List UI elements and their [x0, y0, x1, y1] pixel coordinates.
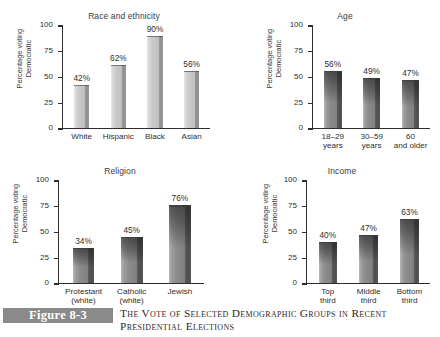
- x-axis-category-label-line: 30–59: [360, 132, 383, 142]
- plot-area: 100755025034%Protestant(white)45%Catholi…: [58, 181, 204, 284]
- bar-value-label: 34%: [75, 236, 92, 246]
- bar-item: 47%Middlethird: [359, 235, 377, 283]
- y-axis-tick-label: 50: [40, 227, 49, 236]
- x-axis-category-label-line: White: [71, 132, 92, 142]
- bar-value-label: 47%: [402, 68, 419, 78]
- chart-panel-religion: ReligionPercentage votingDemocratic10075…: [0, 157, 220, 312]
- x-axis-category-label-line: (white): [65, 296, 102, 306]
- x-axis-category-label-line: Bottom: [397, 287, 423, 297]
- x-axis-category-label-line: years: [360, 141, 383, 151]
- y-axis-tick: 0: [302, 283, 307, 284]
- y-axis-tick-label: 100: [284, 175, 297, 184]
- bar-top-edge: [324, 71, 341, 72]
- bar-item: 76%Jewish: [169, 205, 191, 282]
- plot-area: 100755025042%White62%Hispanic90%Black56%…: [62, 26, 210, 129]
- x-axis-category-label-line: Top: [320, 287, 336, 297]
- x-axis-category-label-line: Catholic: [117, 287, 146, 297]
- x-axis-category-label-line: years: [322, 141, 345, 151]
- bar-group: 56%18–29years49%30–59years47%60and older: [313, 26, 430, 128]
- bar: [359, 235, 377, 283]
- x-axis-category-label-line: third: [320, 296, 336, 306]
- chart-panel-age: AgePercentage votingDemocratic1007550250…: [220, 2, 440, 157]
- y-axis-tick: 25: [58, 103, 63, 104]
- x-axis-category-label-line: Asian: [182, 132, 202, 142]
- bar-top-edge: [169, 205, 191, 206]
- chart-title: Religion: [0, 166, 220, 176]
- y-axis-tick: 75: [308, 51, 313, 52]
- bar: [121, 237, 143, 283]
- x-axis-line: [58, 283, 204, 284]
- bar-group: 40%Topthird47%Middlethird63%Bottomthird: [307, 181, 430, 283]
- bar: [402, 80, 419, 128]
- bar-value-label: 56%: [325, 59, 342, 69]
- y-axis-tick: 25: [308, 103, 313, 104]
- x-axis-category-label: Middlethird: [357, 287, 381, 306]
- y-axis-label-line-2: Democratic: [21, 172, 30, 256]
- y-axis-tick-label: 25: [294, 98, 303, 107]
- x-axis-category-label-line: 18–29: [322, 132, 345, 142]
- y-axis-tick-label: 75: [294, 46, 303, 55]
- bar-top-edge: [73, 248, 95, 249]
- bar-value-label: 76%: [172, 193, 189, 203]
- bar: [169, 205, 191, 282]
- bar-item: 90%Black: [147, 36, 162, 127]
- bar-value-label: 90%: [147, 24, 164, 34]
- bar: [363, 78, 380, 128]
- x-axis-category-label: Bottomthird: [397, 287, 423, 306]
- y-axis-tick: 100: [58, 25, 63, 26]
- y-axis-tick-label: 100: [40, 20, 53, 29]
- y-axis-label: Percentage votingDemocratic: [16, 17, 33, 101]
- y-axis-tick-label: 75: [288, 201, 297, 210]
- y-axis-tick: 75: [54, 206, 59, 207]
- x-axis-category-label: 18–29years: [322, 132, 345, 151]
- plot-area: 100755025040%Topthird47%Middlethird63%Bo…: [306, 181, 430, 284]
- y-axis-label-line-2: Democratic: [275, 17, 284, 101]
- chart-title: Income: [220, 166, 440, 176]
- bar-value-label: 47%: [360, 223, 377, 233]
- bar-item: 42%White: [74, 85, 89, 128]
- x-axis-category-label: White: [71, 132, 92, 142]
- x-axis-category-label: Topthird: [320, 287, 336, 306]
- x-axis-line: [62, 128, 210, 129]
- bar: [111, 65, 126, 128]
- y-axis-tick-label: 75: [44, 46, 53, 55]
- y-axis-label: Percentage votingDemocratic: [12, 172, 29, 256]
- y-axis-tick: 50: [54, 232, 59, 233]
- bar-top-edge: [111, 65, 126, 66]
- y-axis-label: Percentage votingDemocratic: [266, 17, 283, 101]
- plot-area: 100755025056%18–29years49%30–59years47%6…: [312, 26, 430, 129]
- y-axis-tick-label: 100: [290, 20, 303, 29]
- bar-value-label: 56%: [183, 59, 200, 69]
- bar: [147, 36, 162, 127]
- y-axis-tick: 0: [54, 283, 59, 284]
- bar-group: 42%White62%Hispanic90%Black56%Asian: [63, 26, 210, 128]
- x-axis-category-label: Jewish: [168, 287, 193, 297]
- y-axis-tick: 75: [58, 51, 63, 52]
- y-axis-tick: 25: [302, 258, 307, 259]
- bar-value-label: 42%: [73, 73, 90, 83]
- y-axis-tick: 100: [302, 180, 307, 181]
- y-axis-tick-label: 100: [36, 175, 49, 184]
- bar-top-edge: [359, 235, 377, 236]
- x-axis-category-label-line: Protestant: [65, 287, 102, 297]
- x-axis-category-label-line: Jewish: [168, 287, 193, 297]
- x-axis-category-label: Hispanic: [103, 132, 134, 142]
- y-axis-tick: 100: [308, 25, 313, 26]
- bar: [319, 242, 337, 283]
- bar-group: 34%Protestant(white)45%Catholic(white)76…: [59, 181, 204, 283]
- y-axis-tick: 75: [302, 206, 307, 207]
- bar-value-label: 63%: [401, 207, 418, 217]
- chart-panel-race-and-ethnicity: Race and ethnicityPercentage votingDemoc…: [0, 2, 220, 157]
- x-axis-category-label-line: (white): [117, 296, 146, 306]
- bar-top-edge: [400, 219, 418, 220]
- bar-item: 47%60and older: [402, 80, 419, 128]
- x-axis-category-label-line: 60: [394, 132, 428, 142]
- y-axis-tick: 50: [302, 232, 307, 233]
- x-axis-line: [312, 128, 430, 129]
- y-axis-tick-label: 75: [40, 201, 49, 210]
- x-axis-category-label-line: Middle: [357, 287, 381, 297]
- bar: [73, 248, 95, 283]
- bar: [324, 71, 341, 128]
- bar-top-edge: [363, 78, 380, 79]
- y-axis-tick-label: 25: [44, 98, 53, 107]
